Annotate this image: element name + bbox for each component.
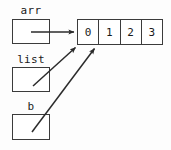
arrow-list-to-array	[33, 48, 76, 87]
arrow-layer	[0, 0, 171, 150]
pointer-diagram: arr list b 0 1 2 3	[0, 0, 171, 150]
arrow-b-to-array	[32, 49, 95, 133]
